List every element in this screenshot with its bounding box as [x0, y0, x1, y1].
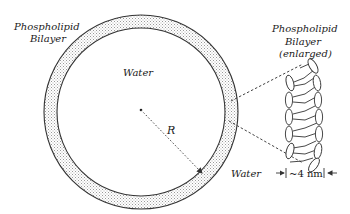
bilayer-ring	[44, 15, 238, 209]
thickness-indicator: ~4 nm	[276, 168, 337, 179]
radius-line	[141, 110, 202, 173]
radius-label: R	[166, 124, 175, 137]
thickness-label: ~4 nm	[289, 168, 323, 179]
vesicle	[44, 15, 238, 209]
inner-water-label: Water	[123, 67, 154, 78]
enlarged-bilayer	[284, 57, 322, 173]
enlarged-label-line3: (enlarged)	[279, 48, 332, 59]
enlarged-label-line1: Phospholipid	[271, 23, 338, 34]
enlarged-label-line2: Bilayer	[284, 36, 322, 47]
outer-bilayer-label-line2: Bilayer	[29, 33, 67, 44]
lipid-heads-inner	[284, 74, 295, 159]
outer-bilayer-label-line1: Phospholipid	[13, 21, 80, 32]
liposome-diagram: R Phospholipid Bilayer Water Water Phosp…	[0, 0, 350, 214]
outer-water-label: Water	[231, 168, 262, 179]
zoom-line-bottom	[229, 121, 303, 163]
